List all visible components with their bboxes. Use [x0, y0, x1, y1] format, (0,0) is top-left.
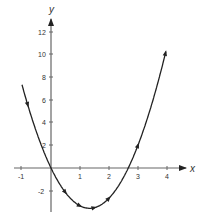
x-axis-label: x [189, 163, 196, 174]
y-axis-label: y [48, 4, 55, 15]
svg-text:8: 8 [42, 74, 46, 81]
curve-arrow-icon [25, 102, 31, 109]
svg-text:1: 1 [78, 173, 82, 180]
curve-arrow-icon [91, 205, 97, 211]
svg-text:-2: -2 [38, 188, 44, 195]
svg-text:6: 6 [42, 97, 46, 104]
svg-text:4: 4 [165, 173, 169, 180]
curve-arrow-icon [135, 142, 141, 149]
svg-text:4: 4 [42, 119, 46, 126]
svg-text:3: 3 [136, 173, 140, 180]
curve-arrow-icon [76, 202, 83, 208]
svg-text:12: 12 [38, 29, 46, 36]
svg-text:-1: -1 [18, 173, 24, 180]
svg-text:2: 2 [107, 173, 111, 180]
curve-direction-arrows [25, 50, 168, 211]
curve-arrow-icon [163, 50, 169, 56]
svg-text:10: 10 [38, 51, 46, 58]
parabola-chart: x y -1 1 2 3 4 -2 2 4 6 8 10 12 [0, 0, 205, 215]
